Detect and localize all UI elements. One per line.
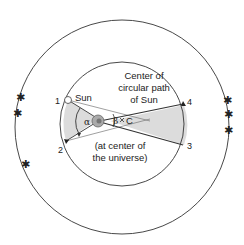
star-icon: ✱ [16,91,25,103]
pos4-arrowhead [181,101,186,106]
sun-icon [65,97,72,104]
alpha-label: α [84,117,90,127]
star-icon: ✱ [21,158,30,170]
sun-label: Sun [75,92,92,103]
center-label-line1: Center of [124,70,163,81]
point-c-label: C [126,115,133,126]
outer-star-sphere [15,20,229,234]
earth-label-line1: (at center of [95,140,146,151]
star-icon: ✱ [224,124,233,136]
position-1-label: 1 [55,96,60,106]
alpha-arrowhead [77,133,81,137]
star-icons-right: ✱ ✱ ✱ [223,94,233,136]
center-label-line3: of Sun [130,94,157,105]
position-3-label: 3 [187,141,192,151]
center-label-line2: circular path [118,82,170,93]
earth-label-line2: the universe) [93,152,148,163]
star-icons-left: ✱ ✱ ✱ [13,91,30,170]
beta-label: β [113,116,118,126]
geocentric-diagram: ✱ ✱ ✱ ✱ ✱ ✱ 1 Sun 2 3 4 α β C Center of … [0,0,244,245]
star-icon: ✱ [224,108,233,120]
star-icon: ✱ [223,94,232,106]
position-4-label: 4 [187,97,192,107]
position-2-label: 2 [58,145,63,155]
earth-inner [97,119,102,124]
star-icon: ✱ [13,107,22,119]
